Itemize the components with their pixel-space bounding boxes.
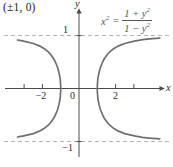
x-axis-label: x (166, 83, 171, 94)
equation-fraction: 1 + y2 1 − y2 (122, 6, 152, 34)
origin-label: 0 (70, 91, 75, 101)
x-tick-label-2: 2 (110, 91, 121, 101)
figure-container: (±1, 0) x2= 1 + y2 1 − y2 x y −2 0 2 1 −… (0, 0, 173, 167)
x-tick-label-minus2: −2 (33, 91, 49, 101)
y-tick-label-minus1: −1 (58, 143, 73, 153)
equation-denominator: 1 − y2 (122, 20, 152, 35)
equation-lhs: x2= (101, 14, 119, 27)
y-axis-label: y (75, 0, 80, 10)
y-tick-label-1: 1 (59, 25, 68, 35)
intercepts-annotation: (±1, 0) (3, 2, 36, 14)
curve-equation: x2= 1 + y2 1 − y2 (101, 6, 152, 34)
equation-numerator: 1 + y2 (122, 6, 152, 20)
x-axis-arrow-icon (160, 86, 165, 91)
